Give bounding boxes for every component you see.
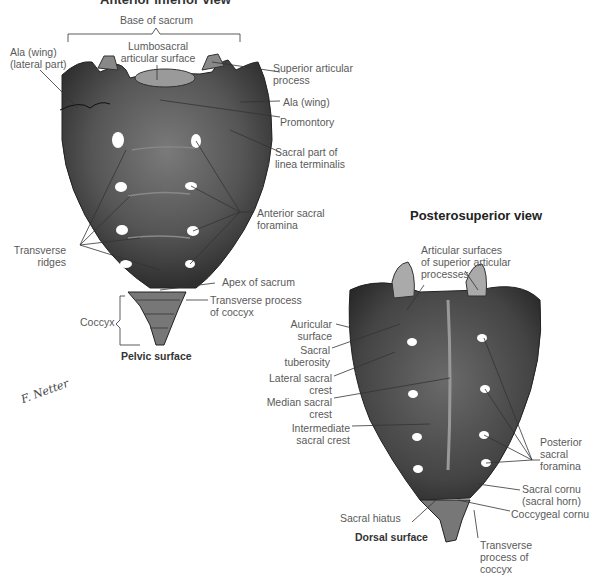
label-tp-coccyx-2: process of bbox=[480, 551, 528, 563]
label-tp-coccyx-3: coccyx bbox=[480, 563, 512, 575]
label-lumbosacral-1: Lumbosacral bbox=[128, 40, 188, 52]
label-median-crest-1: Median sacral bbox=[260, 396, 332, 408]
label-median-crest-2: crest bbox=[260, 408, 332, 420]
label-ala-wing: Ala (wing) bbox=[283, 96, 330, 108]
label-transverse-ridges-2: ridges bbox=[10, 256, 66, 268]
caption-dorsal-surface: Dorsal surface bbox=[355, 531, 428, 543]
label-intermediate-2: sacral crest bbox=[278, 434, 350, 446]
label-articular-1: Articular surfaces bbox=[421, 244, 502, 256]
label-posterior-foramina-2: sacral bbox=[540, 448, 568, 460]
label-lumbosacral-2: articular surface bbox=[118, 52, 198, 64]
label-transverse-ridges-1: Transverse bbox=[10, 244, 66, 256]
label-apex: Apex of sacrum bbox=[222, 276, 295, 288]
label-linea-2: linea terminalis bbox=[275, 158, 345, 170]
label-superior-articular-1: Superior articular bbox=[273, 62, 353, 74]
label-lateral-crest-2: crest bbox=[260, 384, 332, 396]
label-anterior-foramina-2: foramina bbox=[257, 219, 298, 231]
anterior-view-title: Anterior inferior view bbox=[100, 0, 231, 7]
label-coccygeal-cornu: Coccygeal cornu bbox=[511, 508, 589, 520]
label-tuberosity-1: Sacral bbox=[270, 344, 330, 356]
label-ala-lateral-1: Ala (wing) bbox=[10, 46, 57, 58]
label-intermediate-1: Intermediate bbox=[278, 422, 350, 434]
sacrum-illustration bbox=[0, 0, 598, 582]
label-lateral-crest-1: Lateral sacral bbox=[260, 372, 332, 384]
label-articular-2: of superior articular bbox=[421, 256, 511, 268]
label-sacral-cornu-2: (sacral horn) bbox=[522, 495, 581, 507]
label-promontory: Promontory bbox=[280, 116, 334, 128]
label-transverse-process-2: of coccyx bbox=[210, 306, 254, 318]
label-articular-3: processes bbox=[421, 268, 469, 280]
label-tuberosity-2: tuberosity bbox=[270, 356, 330, 368]
label-posterior-foramina-1: Posterior bbox=[540, 436, 582, 448]
label-posterior-foramina-3: foramina bbox=[540, 460, 581, 472]
posterior-sacrum bbox=[349, 262, 541, 542]
label-superior-articular-2: process bbox=[273, 74, 310, 86]
label-sacral-hiatus: Sacral hiatus bbox=[340, 512, 401, 524]
label-anterior-foramina-1: Anterior sacral bbox=[257, 207, 325, 219]
label-tp-coccyx-1: Transverse bbox=[480, 539, 532, 551]
posterior-view-title: Posterosuperior view bbox=[410, 208, 542, 223]
label-coccyx: Coccyx bbox=[80, 316, 114, 328]
label-auricular-2: surface bbox=[270, 330, 332, 342]
label-auricular-1: Auricular bbox=[270, 318, 332, 330]
label-linea-1: Sacral part of bbox=[275, 146, 337, 158]
label-sacral-cornu-1: Sacral cornu bbox=[522, 483, 581, 495]
label-base-of-sacrum: Base of sacrum bbox=[120, 14, 193, 26]
label-ala-lateral-2: (lateral part) bbox=[10, 58, 67, 70]
caption-pelvic-surface: Pelvic surface bbox=[121, 350, 192, 362]
label-transverse-process-1: Transverse process bbox=[210, 294, 302, 306]
